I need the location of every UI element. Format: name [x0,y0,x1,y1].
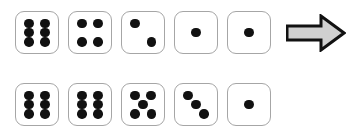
die-pip [24,109,34,119]
die-pip [40,28,50,38]
die-top-row-5 [227,11,271,54]
die-bottom-row-4 [174,83,218,126]
die-pip [77,109,87,119]
die-pip [183,91,193,101]
die-top-row-3 [121,11,165,54]
die-pip [77,91,87,101]
die-pip [40,100,50,110]
die-pip [199,109,209,119]
dice-row-bottom [15,83,271,126]
die-pip [40,37,50,47]
dice-diagram [0,0,352,131]
die-pip [24,19,34,29]
die-pip [191,100,201,110]
die-pip [146,91,156,101]
die-pip [93,91,103,101]
die-pip [77,100,87,110]
die-pip [24,37,34,47]
die-pip [93,19,103,29]
die-pip [138,100,148,110]
die-pip [40,109,50,119]
die-pip [130,19,140,29]
die-pip [93,109,103,119]
die-pip [77,37,87,47]
die-pip [24,91,34,101]
die-pip [77,19,87,29]
dice-row-top [15,11,271,54]
die-pip [93,37,103,47]
die-pip [191,28,201,38]
die-pip [244,100,254,110]
die-top-row-4 [174,11,218,54]
die-bottom-row-5 [227,83,271,126]
die-pip [93,100,103,110]
die-pip [147,37,157,47]
die-pip [244,28,254,38]
die-bottom-row-3 [121,83,165,126]
die-bottom-row-2 [68,83,112,126]
right-arrow-icon [286,14,346,52]
die-bottom-row-1 [15,83,59,126]
die-pip [130,91,140,101]
die-top-row-2 [68,11,112,54]
die-pip [147,109,157,119]
die-pip [24,28,34,38]
die-top-row-1 [15,11,59,54]
die-pip [24,100,34,110]
die-pip [130,109,140,119]
